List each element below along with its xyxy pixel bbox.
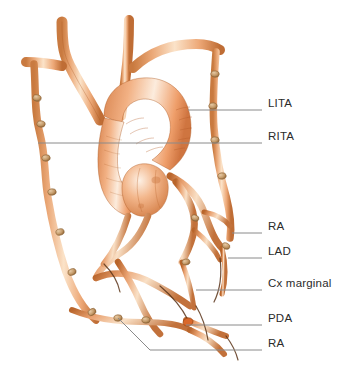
label-cx-marginal: Cx marginal [268, 278, 332, 290]
right-subclavian-branch [133, 44, 220, 68]
label-ra-lower: RA [268, 338, 284, 350]
label-lad: LAD [268, 246, 291, 258]
brachiocephalic-trunk [62, 22, 100, 120]
label-ra-upper: RA [268, 221, 284, 233]
illustration-figure: LITA RITA RA LAD Cx marginal PDA RA [0, 0, 347, 368]
anatomy-artwork [0, 0, 347, 368]
label-rita: RITA [268, 131, 294, 143]
aortic-root [122, 164, 168, 217]
label-pda: PDA [268, 313, 292, 325]
right-ita [213, 52, 231, 238]
label-lita: LITA [268, 98, 292, 110]
